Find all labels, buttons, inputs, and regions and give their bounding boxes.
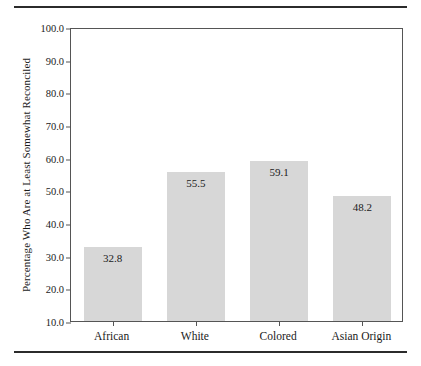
y-axis-tick-label: 80.0 [4,89,71,100]
y-axis-title: Percentage Who Are at Least Somewhat Rec… [18,28,34,322]
y-axis-tick-mark [66,323,71,324]
bar-value-label: 59.1 [250,167,308,178]
x-axis-category-label: African [94,330,129,342]
y-axis-tick-label: 60.0 [4,154,71,165]
bar: 32.8 [84,247,142,321]
y-axis-tick-label: 20.0 [4,285,71,296]
x-axis-tick-mark [279,321,280,326]
bar-value-label: 55.5 [167,178,225,189]
x-axis-category-label: Asian Origin [332,330,392,342]
bar: 55.5 [167,172,225,321]
y-axis-tick-label: 70.0 [4,122,71,133]
x-axis-tick-mark [196,321,197,326]
x-axis-tick-mark [113,321,114,326]
y-axis-tick-label: 90.0 [4,56,71,67]
y-axis-tick-label: 30.0 [4,252,71,263]
x-axis-tick-mark [362,321,363,326]
figure: Percentage Who Are at Least Somewhat Rec… [0,0,421,366]
bar: 59.1 [250,161,308,321]
bottom-horizontal-rule [14,351,407,353]
y-axis-tick-label: 40.0 [4,220,71,231]
bars-layer: 32.855.559.148.2 [71,29,402,321]
y-axis-tick-label: 10.0 [4,318,71,329]
x-axis-category-label: Colored [260,330,297,342]
y-axis-tick-label: 50.0 [4,187,71,198]
plot-area: 100.090.080.070.060.050.040.030.020.010.… [70,28,403,322]
bar: 48.2 [333,196,391,321]
bar-value-label: 48.2 [333,202,391,213]
x-axis-category-label: White [181,330,209,342]
y-axis-tick-label: 100.0 [4,24,71,35]
top-horizontal-rule [14,6,407,8]
bar-value-label: 32.8 [84,253,142,264]
